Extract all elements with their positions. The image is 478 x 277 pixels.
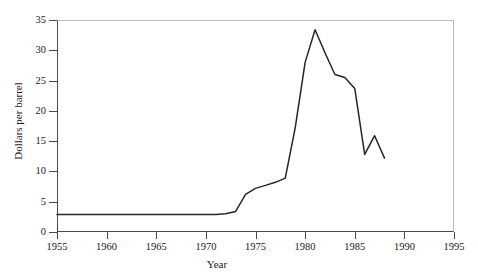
x-axis-title: Year — [0, 258, 478, 270]
series-svg — [0, 0, 478, 277]
x-axis-title-text: Year — [207, 258, 227, 270]
y-axis-title-text: Dollars per barrel — [12, 56, 24, 186]
series-line-crude-oil-price — [57, 30, 385, 215]
figure-container: 35 30 25 20 15 10 5 0 1955 1960 1965 197… — [0, 0, 478, 277]
y-axis-title: Dollars per barrel — [12, 0, 26, 56]
